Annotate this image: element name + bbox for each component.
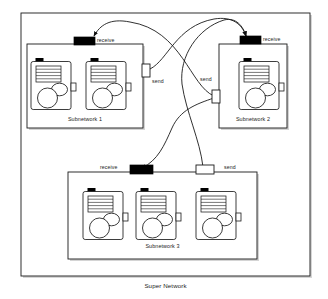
port-send-subnetwork-2[interactable] bbox=[212, 90, 220, 103]
port-label-sn1-send: send bbox=[152, 78, 164, 84]
diagram-canvas: receive send receive send receive send S… bbox=[0, 0, 328, 299]
port-label-sn2-receive: receive bbox=[263, 36, 280, 42]
port-send-subnetwork-1[interactable] bbox=[142, 64, 150, 77]
port-label-sn1-receive: receive bbox=[97, 37, 114, 43]
super-network-label: Super Network bbox=[21, 282, 310, 289]
port-label-sn2-send: send bbox=[200, 76, 212, 82]
subnetwork-3-label: Subnetwork 3 bbox=[68, 243, 257, 249]
network-node-icon[interactable] bbox=[136, 188, 181, 240]
port-label-sn3-receive: receive bbox=[100, 164, 117, 170]
network-node-icon[interactable] bbox=[86, 58, 131, 110]
network-node-icon[interactable] bbox=[196, 188, 241, 240]
port-receive-subnetwork-1[interactable] bbox=[74, 37, 95, 45]
network-node-icon[interactable] bbox=[31, 58, 76, 110]
network-node-icon[interactable] bbox=[239, 58, 284, 110]
port-label-sn3-send: send bbox=[224, 164, 236, 170]
port-send-subnetwork-3[interactable] bbox=[196, 165, 214, 174]
subnetwork-1-label: Subnetwork 1 bbox=[27, 116, 143, 122]
diagram-svg bbox=[0, 0, 328, 299]
network-node-icon[interactable] bbox=[83, 188, 128, 240]
port-receive-subnetwork-2[interactable] bbox=[240, 36, 261, 44]
subnetwork-2-label: Subnetwork 2 bbox=[219, 116, 287, 122]
port-receive-subnetwork-3[interactable] bbox=[130, 165, 153, 174]
